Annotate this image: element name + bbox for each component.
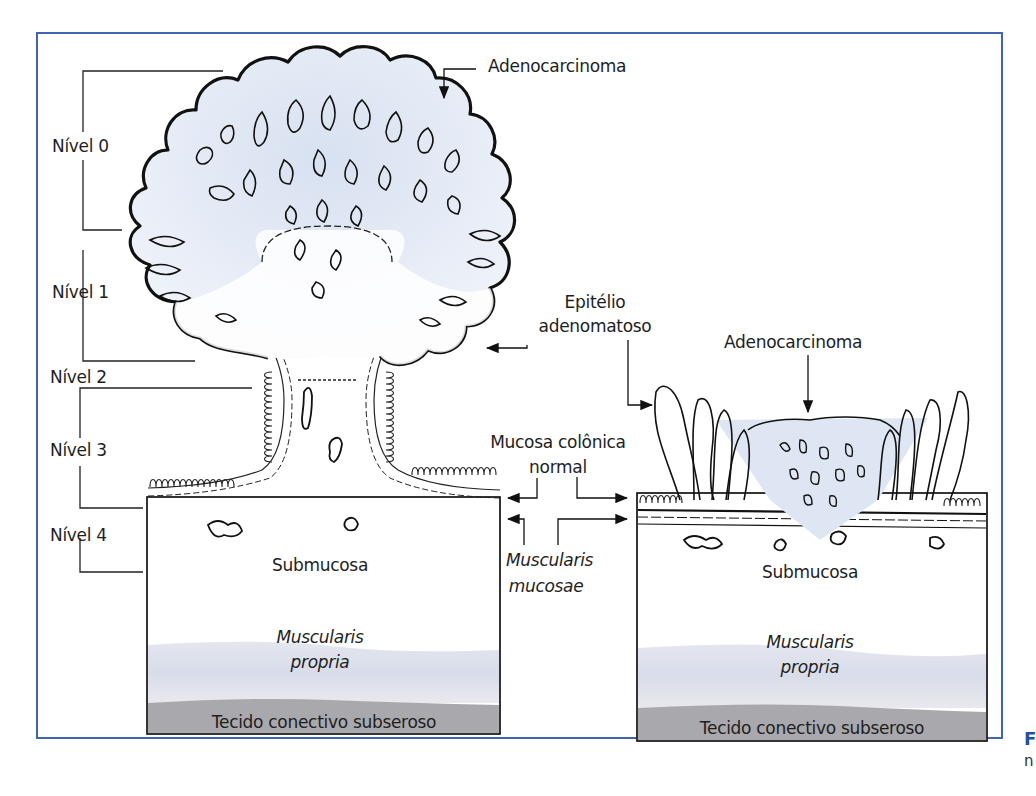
label-level-4: Nível 4	[50, 525, 107, 545]
label-subserosa-left: Tecido conectivo subseroso	[148, 712, 500, 732]
label-subserosa-right: Tecido conectivo subseroso	[637, 718, 987, 738]
label-adenocarcinoma-right: Adenocarcinoma	[724, 332, 862, 352]
label-muscularis-mm: Muscularis	[506, 550, 586, 570]
label-muscularis-propria-right-2: propria	[760, 657, 860, 677]
label-mucosa-colonica: Mucosa colônica	[468, 432, 648, 452]
label-submucosa-right: Submucosa	[740, 562, 880, 582]
label-epitelio: Epitélio	[540, 292, 650, 312]
label-level-1: Nível 1	[52, 282, 109, 302]
label-level-3: Nível 3	[50, 440, 107, 460]
label-submucosa-left: Submucosa	[250, 555, 390, 575]
label-level-2: Nível 2	[50, 367, 107, 387]
caption-fragment-bold: F	[1024, 728, 1036, 749]
label-muscularis-propria-right-1: Muscularis	[760, 632, 860, 652]
label-adenomatoso: adenomatoso	[530, 316, 660, 336]
caption-fragment: n	[1024, 752, 1034, 770]
label-normal: normal	[508, 457, 608, 477]
label-muscularis-propria-left-1: Muscularis	[270, 627, 370, 647]
label-mucosae: mucosae	[506, 576, 586, 596]
label-level-0: Nível 0	[52, 136, 109, 156]
label-adenocarcinoma-left: Adenocarcinoma	[488, 56, 626, 76]
label-muscularis-propria-left-2: propria	[270, 652, 370, 672]
